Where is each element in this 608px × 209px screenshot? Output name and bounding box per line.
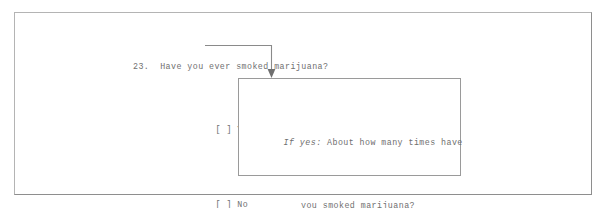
- if-yes-question-line-2: you smoked marijuana?: [301, 200, 463, 208]
- if-yes-content: If yes: About how many times have you sm…: [251, 87, 463, 208]
- if-yes-question-line-1: About how many times have: [327, 138, 463, 147]
- question-prompt: 23. Have you ever smoked marijuana?: [133, 61, 328, 74]
- if-yes-lead-line: If yes: About how many times have: [251, 125, 463, 163]
- choice-no-line: [ ] No: [216, 200, 249, 209]
- if-yes-box: If yes: About how many times have you sm…: [238, 78, 461, 176]
- if-yes-label: If yes:: [284, 138, 322, 147]
